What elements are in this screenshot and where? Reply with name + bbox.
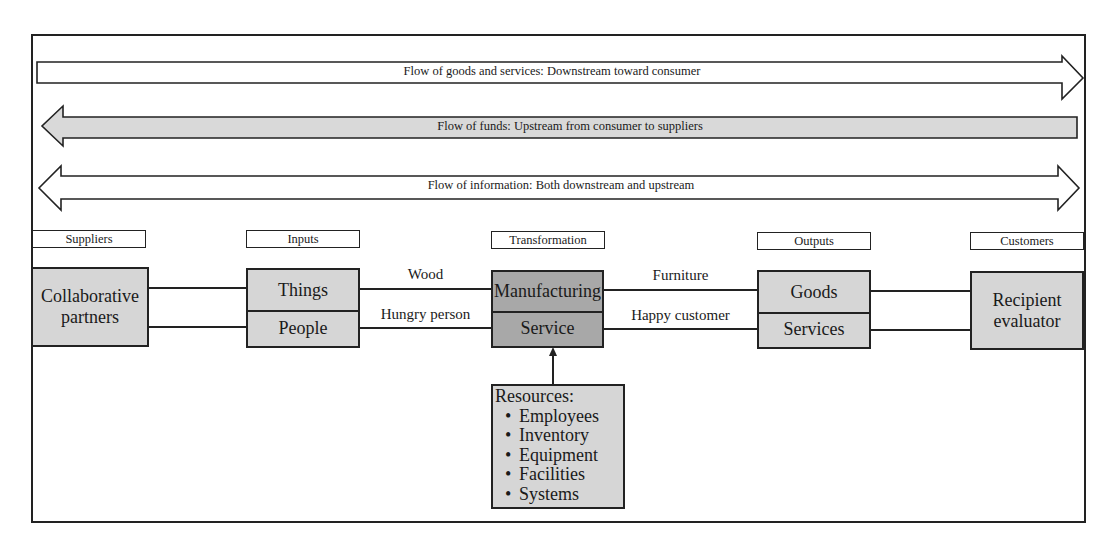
outputs-box: Goods Services [757, 270, 871, 349]
suppliers-box: Collaborative partners [31, 267, 149, 347]
transformation-box: Manufacturing Service [491, 270, 604, 348]
suppliers-line1: Collaborative [41, 286, 139, 307]
suppliers-line2: partners [41, 307, 139, 328]
outputs-goods: Goods [759, 272, 869, 314]
happy-customer-label: Happy customer [604, 307, 757, 324]
customers-box: Recipient evaluator [970, 271, 1084, 350]
connector-service-services [604, 328, 757, 330]
information-flow-label: Flow of information: Both downstream and… [61, 178, 1061, 193]
resource-item: Systems [505, 485, 623, 505]
connector-people-service [360, 327, 491, 329]
customers-line2: evaluator [993, 311, 1062, 332]
category-customers: Customers [970, 232, 1084, 250]
resources-arrow-head [549, 347, 557, 356]
resources-box: Resources: Employees Inventory Equipment… [491, 384, 625, 509]
transformation-service: Service [493, 311, 602, 346]
resources-list: Employees Inventory Equipment Facilities… [495, 407, 623, 505]
wood-label: Wood [360, 266, 491, 283]
hungry-person-label: Hungry person [360, 306, 491, 323]
transformation-manufacturing: Manufacturing [493, 272, 602, 313]
resource-item: Facilities [505, 465, 623, 485]
resource-item: Inventory [505, 426, 623, 446]
connector-suppliers-people [149, 326, 246, 328]
customers-line1: Recipient [993, 290, 1062, 311]
connector-manufacturing-goods [604, 289, 757, 291]
inputs-things: Things [248, 270, 358, 312]
resource-item: Employees [505, 407, 623, 427]
category-transformation: Transformation [491, 231, 605, 249]
category-suppliers: Suppliers [32, 230, 146, 248]
resource-item: Equipment [505, 446, 623, 466]
inputs-box: Things People [246, 268, 360, 348]
funds-flow-label: Flow of funds: Upstream from consumer to… [63, 119, 1077, 134]
outputs-services: Services [759, 312, 869, 347]
connector-services-customers [871, 329, 970, 331]
resources-title: Resources: [495, 387, 623, 407]
connector-goods-customers [871, 290, 970, 292]
goods-flow-label: Flow of goods and services: Downstream t… [37, 64, 1067, 79]
furniture-label: Furniture [604, 267, 757, 284]
connector-things-manufacturing [360, 288, 491, 290]
category-inputs: Inputs [246, 230, 360, 248]
connector-suppliers-things [149, 287, 246, 289]
category-outputs: Outputs [757, 232, 871, 250]
inputs-people: People [248, 310, 358, 346]
